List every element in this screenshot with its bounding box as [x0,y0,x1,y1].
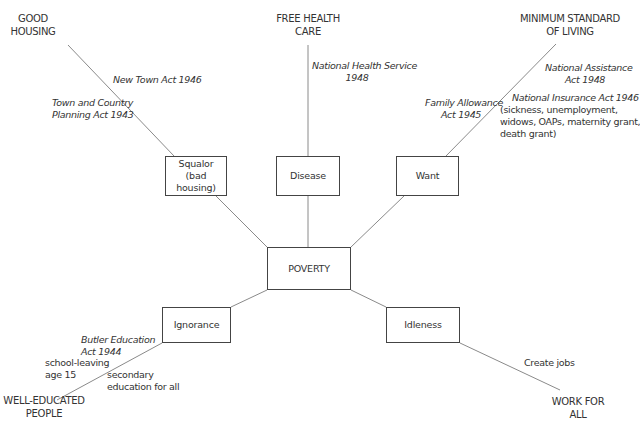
act-nhs-line1: National Health Service [312,60,402,72]
act-assistance-line2: Act 1948 [545,74,625,86]
act-new-town-text: New Town Act 1946 [113,74,202,85]
act-family-line1: Family Allowance [425,97,497,109]
goal-work-line2: ALL [548,409,608,422]
idleness-box: Idleness [386,307,460,343]
act-town-country-line1: Town and Country [52,97,134,109]
act-nhs: National Health Service 1948 [312,60,402,84]
act-family-line2: Act 1945 [425,109,497,121]
disease-label: Disease [290,170,326,182]
ignorance-box: Ignorance [162,307,231,343]
secondary-line2: education for all [107,381,179,393]
ignorance-label: Ignorance [174,319,220,331]
act-national-insurance: National Insurance Act 1946 [512,92,639,104]
note-school-leaving: school-leaving age 15 [45,357,109,381]
line-squalor-poverty [216,196,267,247]
act-butler-line1: Butler Education [81,334,155,346]
create-jobs-text: Create jobs [524,357,575,368]
goal-work-line1: WORK FOR [548,396,608,409]
act-assistance-line1: National Assistance [545,62,625,74]
line-want-poverty [351,196,404,247]
act-butler-education: Butler Education Act 1944 [81,334,155,358]
act-town-country-line2: Planning Act 1943 [52,109,134,121]
squalor-label: Squalor [166,158,226,170]
line-poverty-idleness [351,290,386,307]
act-new-town: New Town Act 1946 [113,74,202,86]
insurance-detail-line1: (sickness, unemployment, [500,104,640,116]
goal-good-housing: GOOD HOUSING [3,13,63,38]
goal-standard-line2: OF LIVING [515,26,625,39]
poverty-label: POVERTY [288,263,330,275]
act-national-assistance: National Assistance Act 1948 [545,62,625,86]
idleness-label: Idleness [404,319,441,331]
school-leaving-line1: school-leaving [45,357,109,369]
secondary-line1: secondary [107,369,179,381]
act-national-insurance-detail: (sickness, unemployment, widows, OAPs, m… [500,104,640,140]
goal-educated-line1: WELL-EDUCATED [3,395,85,408]
line-poverty-ignorance [231,290,267,307]
goal-free-health-care: FREE HEALTH CARE [268,13,348,38]
act-family-allowance: Family Allowance Act 1945 [425,97,497,121]
goal-well-educated: WELL-EDUCATED PEOPLE [3,395,85,420]
goal-minimum-standard: MINIMUM STANDARD OF LIVING [515,13,625,38]
insurance-detail-line2: widows, OAPs, maternity grant, [500,116,640,128]
goal-health-line1: FREE HEALTH [268,13,348,26]
disease-box: Disease [276,156,340,196]
note-create-jobs: Create jobs [524,357,575,369]
insurance-detail-line3: death grant) [500,128,640,140]
poverty-box: POVERTY [267,247,351,290]
note-secondary-education: secondary education for all [107,369,179,393]
goal-educated-line2: PEOPLE [3,408,85,421]
goal-good-housing-line1: GOOD [3,13,63,26]
want-box: Want [396,156,459,196]
act-nhs-line2: 1948 [312,72,402,84]
goal-work-for-all: WORK FOR ALL [548,396,608,421]
school-leaving-line2: age 15 [45,369,109,381]
goal-health-line2: CARE [268,26,348,39]
squalor-sublabel: (bad housing) [166,170,226,194]
want-label: Want [416,170,440,182]
act-town-country: Town and Country Planning Act 1943 [52,97,134,121]
goal-standard-line1: MINIMUM STANDARD [515,13,625,26]
act-insurance-text: National Insurance Act 1946 [512,92,639,103]
squalor-box: Squalor (bad housing) [165,156,227,196]
goal-good-housing-line2: HOUSING [3,26,63,39]
